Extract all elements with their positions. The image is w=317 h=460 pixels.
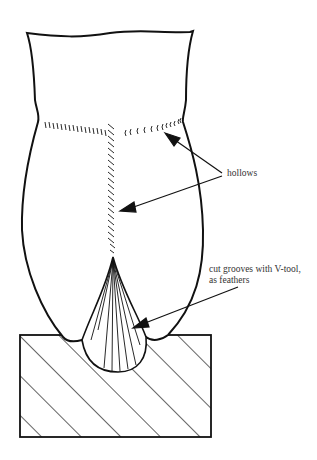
label-grooves-line2: as feathers — [209, 275, 249, 286]
owl-diagram — [0, 0, 317, 460]
label-grooves-line1: cut grooves with V-tool, — [209, 264, 301, 275]
label-hollows: hollows — [227, 168, 257, 179]
